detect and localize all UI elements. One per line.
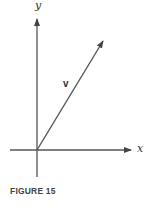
x-axis-label: x [137, 142, 143, 155]
figure-caption: FIGURE 15 [10, 186, 56, 196]
figure-diagram: y x v FIGURE 15 [0, 0, 168, 210]
axes-and-vector [0, 0, 168, 210]
vector-v [37, 41, 103, 150]
y-axis-label: y [35, 0, 41, 12]
vector-label: v [63, 78, 69, 89]
